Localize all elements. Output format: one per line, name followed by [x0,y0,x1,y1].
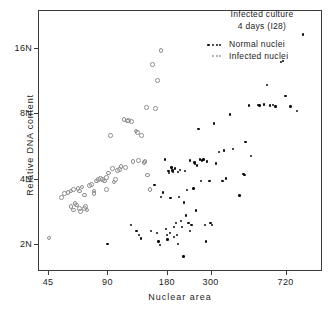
data-point-normal [106,243,108,245]
data-point-infected [89,182,94,187]
y-tick-mark [34,179,38,180]
y-tick-label: 8N [10,108,32,118]
data-point-normal [130,224,132,226]
data-point-normal [189,230,191,232]
y-tick-label: 16N [10,43,32,53]
data-point-normal [202,158,204,160]
data-point-normal [140,237,142,239]
data-point-normal [153,184,155,186]
data-point-normal [229,113,231,115]
data-point-infected [69,204,74,209]
data-point-infected [129,119,134,124]
x-axis-label: Nuclear area [38,292,322,302]
x-tick-label: 720 [278,277,294,287]
x-tick-label: 180 [159,277,175,287]
x-tick-mark [48,271,49,275]
legend-item-normal: Normal nuclei [212,39,326,51]
data-point-infected [125,119,130,124]
data-point-infected [113,177,118,182]
figure-annotation: Infected culture 4 days (I28) Normal nuc… [198,9,326,62]
title-line-2: 4 days (I28) [198,21,326,33]
data-point-normal [162,191,164,193]
data-point-normal [197,128,199,130]
y-tick-mark [34,48,38,49]
data-point-normal [169,232,171,234]
data-point-infected [123,165,128,170]
title-line-1: Infected culture [198,9,326,21]
data-point-infected [92,191,97,196]
x-tick-mark [167,271,168,275]
data-point-normal [166,238,168,240]
data-point-infected [110,166,115,171]
data-point-normal [156,232,158,234]
data-point-normal [196,164,198,166]
data-point-infected [159,48,164,53]
data-point-infected [144,105,149,110]
x-tick-mark [286,271,287,275]
legend-label-normal: Normal nuclei [229,39,285,51]
y-tick-label: 2N [10,239,32,249]
x-tick-label: 300 [203,277,219,287]
data-point-normal [190,224,192,226]
data-point-normal [250,155,252,157]
data-point-normal [182,255,184,257]
x-tick-mark [107,271,108,275]
filled-dot-icon [212,44,229,46]
x-tick-mark [211,271,212,275]
data-point-normal [185,214,187,216]
data-point-normal [244,141,246,143]
data-point-normal [223,149,225,151]
data-point-infected [153,106,158,111]
data-point-normal [164,158,166,160]
data-point-normal [269,104,271,106]
data-point-normal [194,162,196,164]
scatter-figure: Infected culture 4 days (I28) Normal nuc… [0,0,335,312]
x-tick-label: 90 [102,277,113,287]
data-point-infected [117,167,122,172]
data-point-normal [192,187,194,189]
y-tick-label: 4N [10,174,32,184]
data-point-normal [289,105,291,107]
data-point-normal [208,180,210,182]
data-point-normal [238,194,240,196]
data-point-normal [157,240,159,242]
open-dot-icon [212,55,229,57]
data-point-infected [108,133,113,138]
data-point-normal [213,122,215,124]
data-point-infected [155,78,160,83]
data-point-normal [184,170,186,172]
data-point-infected [150,62,155,67]
y-axis-label: Relative DNA content [25,70,35,220]
data-point-normal [205,240,207,242]
data-point-infected [104,187,109,192]
data-point-normal [165,228,167,230]
data-point-normal [176,234,178,236]
data-point-infected [77,189,82,194]
data-point-normal [204,224,206,226]
legend: Normal nuclei Infected nuclei [198,39,326,62]
data-point-infected [148,187,153,192]
data-point-infected [59,195,64,200]
data-point-infected [136,158,141,163]
data-point-normal [274,105,276,107]
data-point-infected [82,206,87,211]
data-point-normal [195,209,197,211]
data-point-infected [139,133,144,138]
data-point-normal [258,104,260,106]
data-point-normal [171,170,173,172]
y-tick-mark [34,113,38,114]
x-tick-label: 45 [43,277,54,287]
y-tick-mark [34,244,38,245]
data-point-infected [82,193,87,198]
data-point-normal [302,33,304,35]
legend-item-infected: Infected nuclei [212,51,326,63]
data-point-normal [135,230,137,232]
data-point-infected [104,175,109,180]
data-point-normal [173,226,175,228]
